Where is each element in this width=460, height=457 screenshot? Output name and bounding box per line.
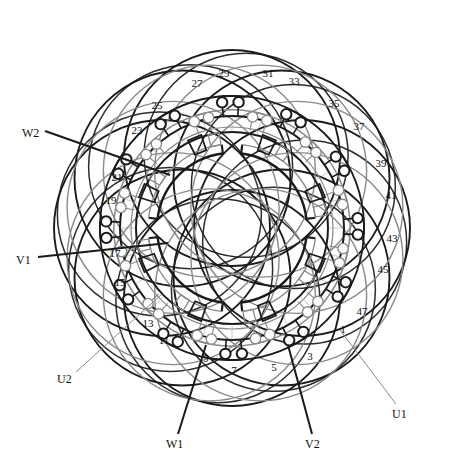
slot-number-15: 15 — [115, 276, 127, 288]
slot-number-7: 7 — [231, 364, 237, 376]
slot-number-23: 23 — [132, 124, 144, 136]
coil-terminal — [170, 111, 180, 121]
coil-terminal — [313, 296, 323, 306]
slot-number-47: 47 — [357, 305, 369, 317]
slot-number-37: 37 — [354, 120, 366, 132]
coil-terminal — [265, 329, 275, 339]
slot-number-29: 29 — [219, 67, 231, 79]
coil-terminal — [281, 109, 291, 119]
coil-terminal — [220, 349, 230, 359]
coil-terminal — [101, 216, 111, 226]
slot-number-39: 39 — [376, 157, 388, 169]
coil-terminal — [120, 261, 130, 271]
coil-terminal — [298, 327, 308, 337]
phase-lead-label-w1: W1 — [166, 437, 183, 451]
coil-terminal — [353, 229, 363, 239]
slot-number-31: 31 — [263, 67, 274, 79]
slot-number-1: 1 — [340, 323, 346, 335]
slot-number-5: 5 — [271, 361, 277, 373]
slot-number-21: 21 — [112, 171, 123, 183]
coil-terminals — [101, 97, 363, 359]
coil-terminal — [141, 149, 151, 159]
diagram-canvas: 1357911131517192123252729313335373941434… — [0, 0, 460, 457]
coil-terminal — [217, 97, 227, 107]
coil-terminal — [155, 119, 165, 129]
slot-number-19: 19 — [106, 194, 118, 206]
coil-terminal — [153, 309, 163, 319]
slot-number-45: 45 — [378, 263, 390, 275]
coil-terminal — [237, 348, 247, 358]
slot-number-25: 25 — [152, 99, 164, 111]
coil-terminal — [333, 185, 343, 195]
coil-terminal — [247, 112, 257, 122]
coil-terminal — [206, 334, 216, 344]
coil-terminal — [300, 137, 310, 147]
coil-connection-arcs — [100, 96, 364, 360]
phase-lead-label-u2: U2 — [57, 372, 72, 386]
coil-terminal — [123, 294, 133, 304]
coil-terminal — [101, 233, 111, 243]
phase-lead-label-v2: V2 — [305, 437, 320, 451]
coil-terminal — [250, 333, 260, 343]
coil-terminal — [341, 277, 351, 287]
coil-terminal — [331, 151, 341, 161]
phase-lead-label-w2: W2 — [22, 126, 39, 140]
slot-number-35: 35 — [329, 97, 341, 109]
slot-number-43: 43 — [387, 232, 399, 244]
coil-terminal — [192, 330, 202, 340]
coil-terminal — [334, 258, 344, 268]
coil-terminal — [339, 166, 349, 176]
coil-terminal — [262, 115, 272, 125]
slot-number-13: 13 — [143, 317, 155, 329]
coil-terminal — [233, 97, 243, 107]
coil-terminal — [338, 243, 348, 253]
slot-number-3: 3 — [307, 350, 313, 362]
coil-terminal — [189, 116, 199, 126]
slot-number-11: 11 — [159, 334, 170, 346]
coil-terminal — [119, 188, 129, 198]
coil-terminal — [284, 335, 294, 345]
slot-number-27: 27 — [192, 77, 204, 89]
phase-lead-label-u1: U1 — [392, 407, 407, 421]
leader-line-w1 — [178, 345, 206, 434]
coil-terminal — [337, 199, 347, 209]
stator-winding-diagram: 1357911131517192123252729313335373941434… — [0, 0, 460, 457]
coil-terminal — [311, 147, 321, 157]
coil-terminal — [116, 202, 126, 212]
coil-terminal — [302, 307, 312, 317]
slot-number-41: 41 — [386, 189, 397, 201]
slot-number-33: 33 — [289, 75, 301, 87]
coil-terminal — [295, 117, 305, 127]
coil-terminal — [352, 213, 362, 223]
coil-terminal — [173, 337, 183, 347]
coil-terminal — [203, 112, 213, 122]
phase-lead-label-v1: V1 — [16, 253, 31, 267]
coil-terminal — [332, 291, 342, 301]
coil-terminal — [151, 139, 161, 149]
stator-teeth — [120, 116, 344, 340]
